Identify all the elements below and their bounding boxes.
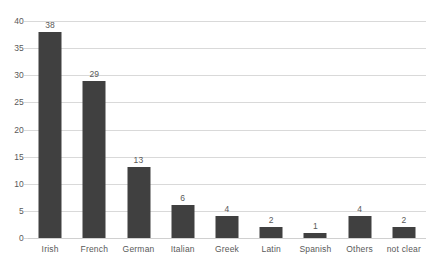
x-axis-category-label: German <box>123 244 155 254</box>
y-tick-mark <box>24 238 28 239</box>
bar[interactable] <box>39 32 62 238</box>
y-axis-tick-label: 35 <box>0 43 24 53</box>
x-axis-category-label: Others <box>346 244 373 254</box>
bar-value-label: 4 <box>357 204 362 214</box>
bar-value-label: 29 <box>89 69 99 79</box>
bar-group: 4 <box>205 21 249 238</box>
bar-value-label: 2 <box>269 215 274 225</box>
bar-value-label: 2 <box>401 215 406 225</box>
y-axis-tick-label: 10 <box>0 179 24 189</box>
x-axis-category-label: not clear <box>387 244 421 254</box>
bars-layer: 382913642142 <box>28 21 426 238</box>
bar[interactable] <box>171 205 194 238</box>
bar-group: 29 <box>72 21 116 238</box>
bar-value-label: 6 <box>180 193 185 203</box>
bar-group: 4 <box>338 21 382 238</box>
y-axis-tick-label: 15 <box>0 152 24 162</box>
x-axis-category-label: French <box>81 244 109 254</box>
bar-group: 1 <box>293 21 337 238</box>
y-axis-tick-label: 20 <box>0 125 24 135</box>
bar[interactable] <box>215 216 238 238</box>
bar-group: 38 <box>28 21 72 238</box>
bar-chart: 0510152025303540 382913642142 IrishFrenc… <box>0 0 444 271</box>
bar[interactable] <box>304 233 327 238</box>
x-axis-category-label: Irish <box>42 244 59 254</box>
y-axis-tick-label: 40 <box>0 16 24 26</box>
bar-value-label: 13 <box>134 155 144 165</box>
y-axis-tick-label: 25 <box>0 97 24 107</box>
bar[interactable] <box>260 227 283 238</box>
x-axis-category-label: Latin <box>262 244 281 254</box>
bar-group: 13 <box>116 21 160 238</box>
y-axis-tick-label: 30 <box>0 70 24 80</box>
x-axis-category-label: Spanish <box>299 244 331 254</box>
bar-value-label: 1 <box>313 221 318 231</box>
bar-group: 6 <box>161 21 205 238</box>
bar[interactable] <box>348 216 371 238</box>
bar-group: 2 <box>249 21 293 238</box>
bar-value-label: 4 <box>225 204 230 214</box>
x-axis-category-label: Italian <box>171 244 195 254</box>
bar[interactable] <box>392 227 415 238</box>
x-axis-category-label: Greek <box>215 244 239 254</box>
bar-group: 2 <box>382 21 426 238</box>
bar[interactable] <box>127 167 150 238</box>
y-axis: 0510152025303540 <box>0 21 24 238</box>
bar[interactable] <box>83 81 106 238</box>
x-axis: IrishFrenchGermanItalianGreekLatinSpanis… <box>28 244 426 264</box>
y-axis-tick-label: 0 <box>0 233 24 243</box>
y-axis-tick-label: 5 <box>0 206 24 216</box>
gridline <box>28 238 426 239</box>
bar-value-label: 38 <box>45 20 55 30</box>
